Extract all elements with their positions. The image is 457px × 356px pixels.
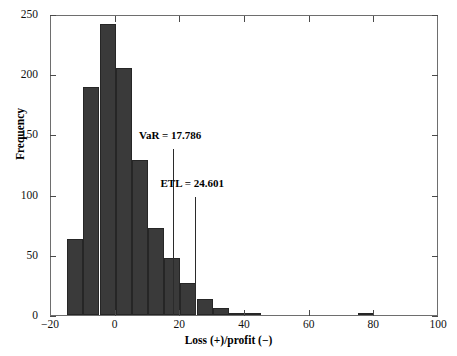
var-annotation-label: VaR = 17.786 <box>139 129 201 141</box>
annotation-lines <box>51 16 437 315</box>
y-tick-mark-right <box>432 256 438 257</box>
x-tick-mark <box>115 310 116 316</box>
y-tick-mark-right <box>432 135 438 136</box>
etl-marker-line <box>195 197 196 315</box>
y-tick-mark <box>50 15 56 16</box>
x-tick-label: 0 <box>112 318 118 330</box>
x-tick-mark-top <box>309 16 310 22</box>
x-tick-label: 80 <box>368 318 380 330</box>
y-tick-mark <box>50 256 56 257</box>
x-tick-label: 40 <box>238 318 250 330</box>
y-axis-label: Frequency <box>14 108 26 160</box>
y-tick-label: 200 <box>0 68 44 80</box>
x-tick-mark <box>244 310 245 316</box>
x-axis-label: Loss (+)/profit (−) <box>0 334 457 346</box>
y-tick-label: 100 <box>0 189 44 201</box>
y-tick-label: 0 <box>0 309 44 321</box>
x-tick-label: 20 <box>174 318 186 330</box>
etl-annotation-label: ETL = 24.601 <box>160 177 223 189</box>
x-tick-label: 60 <box>303 318 315 330</box>
x-tick-label: −20 <box>41 318 59 330</box>
y-tick-mark-right <box>432 15 438 16</box>
x-tick-mark <box>179 310 180 316</box>
y-tick-mark-right <box>432 316 438 317</box>
x-tick-mark-top <box>179 16 180 22</box>
y-tick-mark <box>50 316 56 317</box>
histogram-figure: 050100150200250 −20020406080100 VaR = 17… <box>0 0 457 356</box>
x-tick-mark <box>309 310 310 316</box>
x-tick-mark-top <box>115 16 116 22</box>
plot-area <box>50 15 438 316</box>
x-tick-mark-top <box>244 16 245 22</box>
var-marker-line <box>173 149 174 315</box>
x-tick-label: 100 <box>429 318 446 330</box>
x-tick-mark <box>373 310 374 316</box>
y-tick-mark-right <box>432 75 438 76</box>
y-tick-mark <box>50 75 56 76</box>
y-tick-mark <box>50 135 56 136</box>
x-tick-mark-top <box>373 16 374 22</box>
y-tick-mark <box>50 196 56 197</box>
y-tick-label: 50 <box>0 249 44 261</box>
y-tick-mark-right <box>432 196 438 197</box>
y-tick-label: 250 <box>0 8 44 20</box>
